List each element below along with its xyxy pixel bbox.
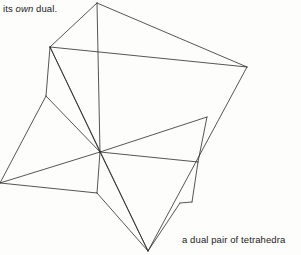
figure-page: its own dual. a dual pair of tetrahedra [0, 0, 301, 255]
dual-tetrahedra-figure [0, 0, 301, 255]
tetrahedron-edge [0, 152, 100, 183]
tetrahedron-edge [198, 117, 207, 162]
tetrahedra-edge-group [0, 3, 247, 251]
tetrahedron-edge [50, 47, 247, 67]
tetrahedron-edge [97, 3, 100, 152]
tetrahedron-edge [50, 47, 100, 152]
tetrahedron-edge [97, 193, 148, 251]
tetrahedron-edge [0, 183, 97, 193]
tetrahedron-edge [148, 203, 180, 251]
tetrahedron-edge [148, 67, 247, 251]
tetrahedron-edge [180, 202, 192, 203]
tetrahedron-edge [0, 96, 46, 183]
tetrahedron-edge [46, 47, 50, 96]
tetrahedron-edge [100, 152, 148, 251]
figure-caption: a dual pair of tetrahedra [182, 234, 285, 246]
tetrahedron-edge [97, 152, 100, 193]
tetrahedron-edge [97, 3, 247, 67]
tetrahedron-edge [100, 152, 198, 162]
tetrahedron-edge [46, 96, 100, 152]
tetrahedron-edge [100, 117, 207, 152]
tetrahedron-edge [50, 3, 97, 47]
